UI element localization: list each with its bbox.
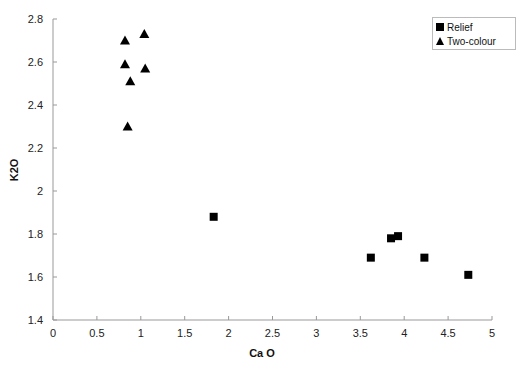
x-tick-label: 0.5 xyxy=(89,327,104,339)
y-tick-label: 1.4 xyxy=(28,314,43,326)
square-marker-icon xyxy=(464,271,472,279)
y-tick-label: 2.6 xyxy=(28,56,43,68)
square-marker-icon xyxy=(387,234,395,242)
square-marker-icon xyxy=(367,254,375,262)
axes: 00.511.522.533.544.551.41.61.822.22.42.6… xyxy=(28,13,495,339)
x-tick-label: 3.5 xyxy=(353,327,368,339)
y-tick-label: 1.8 xyxy=(28,228,43,240)
legend-item-two-colour: Two-colour xyxy=(436,34,512,48)
square-marker-icon xyxy=(420,254,428,262)
square-marker-icon xyxy=(210,213,218,221)
x-tick-label: 1.5 xyxy=(177,327,192,339)
square-marker-icon xyxy=(436,23,444,31)
legend-label-two-colour: Two-colour xyxy=(447,36,496,47)
x-tick-label: 4 xyxy=(401,327,407,339)
x-tick-label: 1 xyxy=(138,327,144,339)
x-tick-label: 2.5 xyxy=(265,327,280,339)
y-axis-title: K2O xyxy=(8,158,20,181)
x-tick-label: 3 xyxy=(313,327,319,339)
triangle-marker-icon xyxy=(125,76,135,85)
y-tick-label: 2 xyxy=(37,185,43,197)
triangle-marker-icon xyxy=(123,122,133,131)
triangle-marker-icon xyxy=(140,63,150,72)
x-tick-label: 0 xyxy=(50,327,56,339)
data-points xyxy=(120,29,472,279)
square-marker-icon xyxy=(394,232,402,240)
triangle-marker-icon xyxy=(139,29,149,38)
y-tick-label: 1.6 xyxy=(28,271,43,283)
triangle-marker-icon xyxy=(120,59,130,68)
x-tick-label: 5 xyxy=(489,327,495,339)
triangle-marker-icon xyxy=(120,36,130,45)
legend-item-relief: Relief xyxy=(436,20,512,34)
legend: Relief Two-colour xyxy=(432,17,516,50)
y-tick-label: 2.4 xyxy=(28,99,43,111)
legend-label-relief: Relief xyxy=(447,22,473,33)
triangle-marker-icon xyxy=(436,37,444,45)
x-axis-title: Ca O xyxy=(249,347,275,359)
x-tick-label: 4.5 xyxy=(440,327,455,339)
x-tick-label: 2 xyxy=(226,327,232,339)
y-tick-label: 2.8 xyxy=(28,13,43,25)
y-tick-label: 2.2 xyxy=(28,142,43,154)
